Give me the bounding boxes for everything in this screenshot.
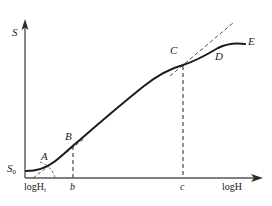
characteristic-curve — [26, 43, 245, 171]
y-intercept-subscript: 0 — [13, 168, 17, 176]
x-tick-b: b — [70, 182, 75, 192]
gamma-angle-arc — [40, 162, 55, 178]
x-axis-origin-subscript: i — [44, 186, 46, 194]
y-intercept-label: S0 — [7, 163, 16, 176]
point-label-b: B — [65, 131, 72, 142]
x-axis-origin-text: logH — [24, 181, 44, 192]
point-label-a: A — [41, 151, 48, 162]
plot-canvas — [0, 0, 272, 206]
x-axis-origin-label: logHi — [24, 182, 46, 194]
shoulder-tangent-line — [170, 23, 233, 76]
y-axis-label: S — [12, 27, 18, 38]
x-axis-label: logH — [222, 182, 242, 192]
point-label-c: C — [170, 45, 177, 56]
point-label-e: E — [248, 36, 255, 47]
x-tick-c: c — [180, 182, 184, 192]
point-label-d: D — [215, 51, 223, 62]
characteristic-curve-figure: S S0 logHi logH b c A B C D E — [0, 0, 272, 206]
